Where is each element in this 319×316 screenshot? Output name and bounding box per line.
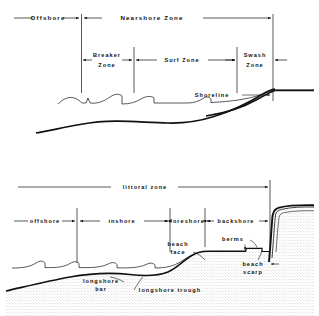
lower-row2-backshore: backshore	[207, 218, 268, 224]
lower-row2-inshore: inshore	[80, 218, 168, 224]
lower-row1-littoral: littoral zone	[18, 184, 268, 190]
lower-label-backshore: backshore	[218, 218, 255, 224]
lower-label-longshore-bar-line2: bar	[95, 286, 107, 292]
upper-label-breaker-line2: Zone	[98, 62, 115, 68]
lower-label-longshore-bar-line1: longshore	[83, 278, 119, 284]
lower-label-beach-scarp-line2: scarp	[243, 269, 263, 275]
upper-label-shoreline: Shoreline	[195, 92, 230, 98]
lower-label-beach-face-line2: face	[170, 249, 185, 255]
upper-label-surf-zone: Surf Zone	[164, 57, 199, 63]
upper-row2-breaker: Breaker Zone	[83, 52, 132, 68]
upper-label-swash-line2: Zone	[246, 62, 263, 68]
lower-row2-offshore: offshore	[14, 218, 75, 224]
lower-label-inshore: inshore	[108, 218, 135, 224]
lower-label-offshore: offshore	[30, 218, 60, 224]
lower-wave-surface	[12, 255, 194, 269]
upper-label-nearshore-zone: Nearshore Zone	[120, 14, 183, 21]
upper-label-swash-line1: Swash	[244, 52, 267, 58]
coastal-zonation-figure: Offshore Nearshore Zone Breaker Zone Sur…	[0, 0, 319, 316]
upper-row2-surf: Surf Zone	[136, 57, 235, 63]
upper-row1-offshore: Offshore	[14, 14, 79, 21]
lower-label-berms: berms	[222, 236, 244, 242]
upper-label-breaker-line1: Breaker	[93, 52, 121, 58]
lower-label-longshore-trough: longshore trough	[139, 287, 201, 293]
upper-label-offshore: Offshore	[31, 14, 66, 21]
lower-label-littoral-zone: littoral zone	[123, 184, 167, 190]
upper-wave-surface	[58, 90, 314, 104]
upper-seabed-profile	[36, 89, 275, 133]
upper-row2-swash: Swash Zone	[225, 52, 287, 68]
upper-row1-nearshore: Nearshore Zone	[84, 14, 271, 21]
lower-label-beach-face-line1: beach	[167, 241, 188, 247]
lower-label-beach-scarp-line1: beach	[242, 261, 263, 267]
lower-row2-foreshore: foreshore	[164, 218, 211, 224]
lower-label-foreshore: foreshore	[170, 218, 205, 224]
